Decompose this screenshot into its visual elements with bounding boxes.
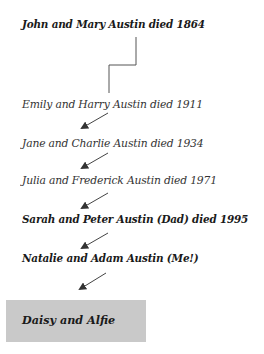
arrow-1 [82,113,108,128]
generation-1: John and Mary Austin died 1864 [22,17,205,31]
arrow-5 [80,273,106,289]
generation-5: Sarah and Peter Austin (Dad) died 1995 [22,212,248,226]
highlight-box: Daisy and Alfie [6,300,146,342]
highlight-label: Daisy and Alfie [22,313,115,327]
arrow-2 [82,153,108,168]
generation-6: Natalie and Adam Austin (Me!) [22,251,198,265]
generation-3: Jane and Charlie Austin died 1934 [22,136,203,150]
arrow-3 [82,193,108,208]
elbow-connector [109,37,136,93]
arrow-4 [82,233,108,248]
generation-4: Julia and Frederick Austin died 1971 [22,173,217,187]
generation-2: Emily and Harry Austin died 1911 [22,97,203,111]
